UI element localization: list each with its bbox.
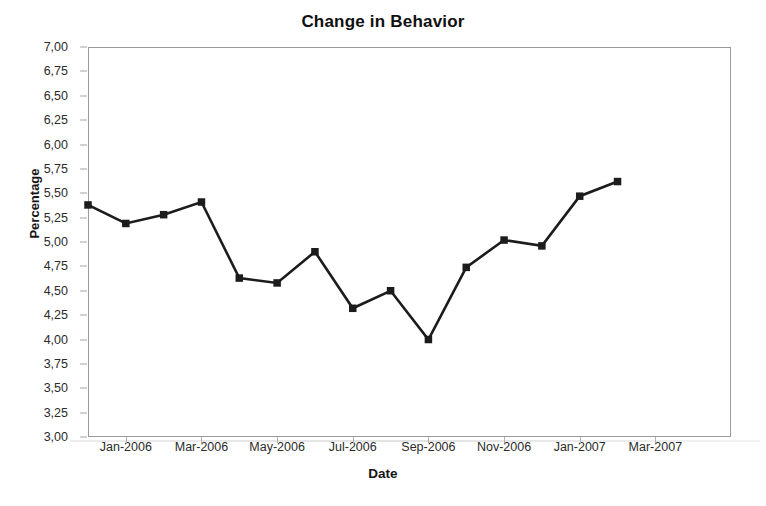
y-axis-tick-label: 3,50 (44, 381, 68, 395)
y-axis-tick-mark (80, 217, 87, 218)
data-point-marker (462, 264, 470, 272)
data-series-line (88, 47, 731, 437)
x-axis-tick-mark (428, 437, 429, 443)
y-axis-tick-mark (80, 339, 87, 340)
y-axis-tick-mark (80, 193, 87, 194)
y-axis-tick-mark (80, 388, 87, 389)
x-axis-tick-mark (277, 437, 278, 443)
x-axis-tick-mark (201, 437, 202, 443)
x-axis-tick-mark (580, 437, 581, 443)
data-point-marker (500, 236, 508, 244)
y-axis-tick-mark (80, 412, 87, 413)
y-axis-tick-mark (80, 266, 87, 267)
chart-container: Change in Behavior 7,006,756,506,256,005… (0, 0, 766, 506)
y-axis-tick-mark (80, 168, 87, 169)
data-point-marker (538, 242, 546, 250)
y-axis-tick-label: 4,75 (44, 259, 68, 273)
y-axis-tick-label: 6,00 (44, 138, 68, 152)
y-axis-tick-label: 5,75 (44, 162, 68, 176)
y-axis-tick-label: 5,00 (44, 235, 68, 249)
y-axis-tick-label: 6,25 (44, 113, 68, 127)
y-axis-tick-label: 4,00 (44, 333, 68, 347)
y-axis-title: Percentage (27, 144, 42, 264)
x-axis-title: Date (0, 466, 766, 481)
y-axis-tick-label: 5,25 (44, 211, 68, 225)
x-axis-tick-mark (504, 437, 505, 443)
x-axis-tick-mark (353, 437, 354, 443)
y-axis-tick-mark (80, 120, 87, 121)
y-axis-tick-mark (80, 437, 87, 438)
y-axis-tick-mark (80, 95, 87, 96)
y-axis-tick-mark (80, 363, 87, 364)
y-axis-tick-mark (80, 315, 87, 316)
y-axis-tick-mark (80, 242, 87, 243)
data-point-marker (311, 248, 319, 256)
series-polyline (88, 182, 618, 340)
data-point-marker (425, 336, 433, 344)
y-axis-tick-label: 4,25 (44, 308, 68, 322)
x-axis-tick-mark (126, 437, 127, 443)
data-point-marker (236, 274, 244, 282)
y-axis-tick-label: 7,00 (44, 40, 68, 54)
y-axis-tick-label: 5,50 (44, 186, 68, 200)
data-point-marker (349, 305, 357, 313)
x-axis: Jan-2006Mar-2006May-2006Jul-2006Sep-2006… (0, 440, 766, 458)
data-point-marker (387, 287, 395, 295)
y-axis-tick-label: 4,50 (44, 284, 68, 298)
data-point-marker (122, 220, 130, 228)
y-axis-tick-label: 6,50 (44, 89, 68, 103)
y-axis-tick-mark (80, 71, 87, 72)
y-axis-tick-mark (80, 144, 87, 145)
y-axis-tick-label: 3,75 (44, 357, 68, 371)
x-axis-tick-mark (655, 437, 656, 443)
data-point-marker (198, 198, 206, 206)
y-axis-tick-mark (80, 47, 87, 48)
data-point-marker (576, 192, 584, 200)
data-point-marker (160, 211, 168, 219)
y-axis-tick-label: 3,25 (44, 406, 68, 420)
data-point-marker (273, 279, 281, 287)
y-axis-tick-label: 6,75 (44, 64, 68, 78)
data-point-marker (614, 178, 622, 186)
y-axis-tick-mark (80, 290, 87, 291)
data-point-marker (84, 201, 92, 209)
chart-title: Change in Behavior (0, 12, 766, 32)
